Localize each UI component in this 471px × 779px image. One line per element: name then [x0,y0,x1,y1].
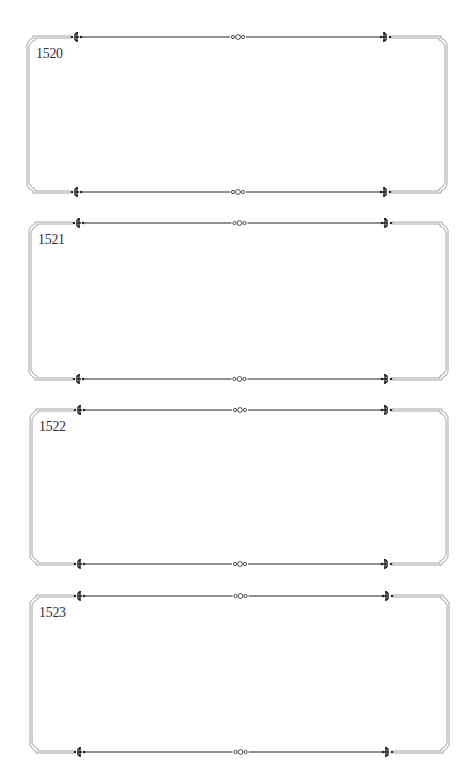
frame-border [0,0,471,779]
top-rule [74,591,394,601]
scroll-right-icon [382,591,394,601]
scroll-right-icon [382,747,394,757]
triple-ring-icon [234,750,247,755]
double-border-line [30,595,449,753]
double-border-line [32,597,447,751]
frame-number-label: 1523 [39,605,66,621]
triple-ring-icon [234,594,247,599]
bottom-rule [74,747,394,757]
scroll-left-icon [74,747,86,757]
scroll-left-icon [74,591,86,601]
label-frame: 1523 [0,0,471,779]
